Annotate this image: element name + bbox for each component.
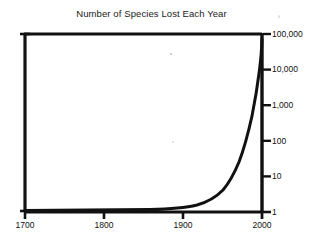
y-tick-label-10000: 10,000 [272, 64, 298, 74]
data-series-species-lost [25, 39, 262, 211]
scan-speck [278, 15, 280, 18]
scan-speck [170, 53, 172, 55]
y-tick-label-100000: 100,000 [272, 29, 303, 39]
y-tick-label-10: 10 [272, 171, 281, 181]
x-tick-label-2000: 2000 [242, 220, 282, 230]
y-tick-label-1000: 1,000 [272, 100, 293, 110]
x-tick-label-1700: 1700 [5, 220, 45, 230]
y-tick-label-1: 1 [272, 207, 277, 217]
y-tick-label-100: 100 [272, 136, 286, 146]
x-tick-label-1800: 1800 [84, 220, 124, 230]
y-axis-ticks [263, 34, 271, 212]
scan-speck [172, 141, 174, 143]
plot-area [0, 0, 315, 249]
scan-speck [290, 73, 292, 75]
chart-figure: Number of Species Lost Each Year [0, 0, 315, 249]
x-tick-label-1900: 1900 [163, 220, 203, 230]
